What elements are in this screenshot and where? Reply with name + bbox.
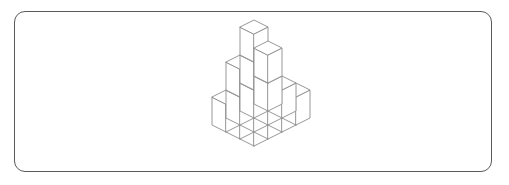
cube-group	[212, 20, 310, 146]
figure-root: Isometric unit-cube stack	[0, 0, 509, 185]
isometric-cube-diagram	[0, 0, 509, 185]
